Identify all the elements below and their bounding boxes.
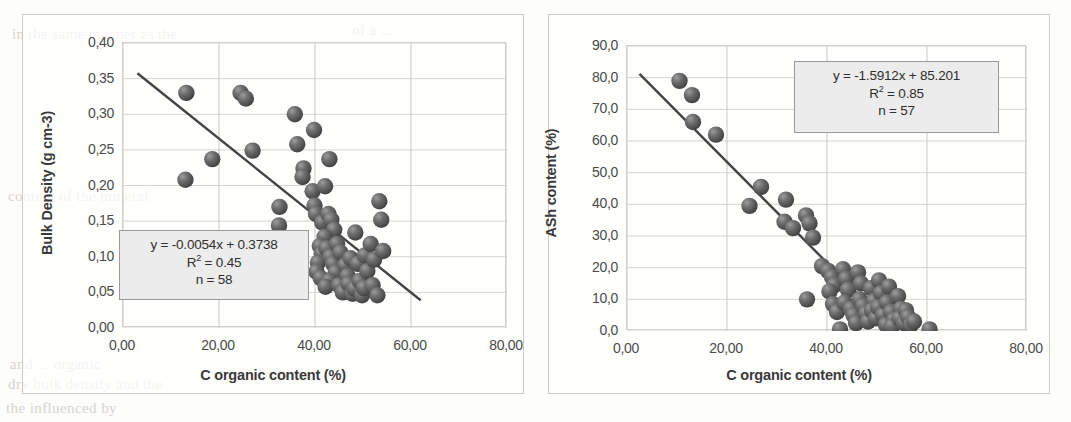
y-tick-label: 20,0 <box>592 259 618 275</box>
y-tick-label: 0,30 <box>88 105 114 121</box>
x-tick-label: 20,00 <box>709 340 743 356</box>
scatter-point <box>271 199 287 215</box>
y-axis-title-bulk-density: Bulk Density (g cm-3) <box>39 111 55 255</box>
regression-annotation-right: y = -1.5912x + 85.201 R2 = 0.85 n = 57 <box>794 61 999 133</box>
y-tick-label: 10,0 <box>592 290 618 306</box>
scatter-point <box>805 229 821 245</box>
scatter-point <box>289 136 305 152</box>
scatter-point <box>921 321 937 331</box>
y-tick-label: 0,35 <box>88 70 114 86</box>
scatter-point <box>785 220 801 236</box>
scatter-point <box>371 193 387 209</box>
scatter-point <box>306 122 322 138</box>
x-tick-label: 80,00 <box>489 337 523 353</box>
y-tick-label: 0,05 <box>88 283 114 299</box>
scatter-point <box>906 313 922 329</box>
x-axis-title-c-organic-left: C organic content (%) <box>23 367 523 383</box>
scatter-point <box>238 90 254 106</box>
regression-equation-left: y = -0.0054x + 0.3738 <box>129 236 299 253</box>
y-axis-title-ash-content: ASh content (%) <box>543 129 559 238</box>
scatter-point <box>741 198 757 214</box>
r-squared-left: R2 = 0.45 <box>129 253 299 271</box>
bulk-density-panel: Bulk Density (g cm-3) C organic content … <box>22 14 524 394</box>
ghost-text: the influenced by <box>6 400 117 417</box>
scatter-point <box>178 85 194 101</box>
regression-equation-right: y = -1.5912x + 85.201 <box>804 67 989 84</box>
scatter-point <box>373 212 389 228</box>
scatter-point <box>778 191 794 207</box>
x-axis-title-c-organic-right: C organic content (%) <box>549 367 1049 383</box>
x-tick-label: 40,00 <box>809 340 843 356</box>
y-tick-label: 40,0 <box>592 195 618 211</box>
scatter-point <box>708 126 724 142</box>
ash-content-chart: ASh content (%) C organic content (%) 0,… <box>549 15 1049 393</box>
y-tick-label: 30,0 <box>592 227 618 243</box>
figure-container: in the same manner as theof a ...content… <box>0 0 1071 422</box>
y-tick-label: 0,00 <box>88 319 114 335</box>
x-tick-label: 0,00 <box>613 340 639 356</box>
scatter-point <box>753 179 769 195</box>
x-tick-label: 60,00 <box>909 340 943 356</box>
scatter-point <box>317 178 333 194</box>
y-tick-label: 0,10 <box>88 248 114 264</box>
x-tick-label: 80,00 <box>1009 340 1043 356</box>
y-tick-label: 70,0 <box>592 100 618 116</box>
scatter-point <box>671 73 687 89</box>
scatter-point <box>347 224 363 240</box>
y-tick-label: 60,0 <box>592 132 618 148</box>
scatter-point <box>294 169 310 185</box>
r-squared-right: R2 = 0.85 <box>804 84 989 102</box>
bulk-density-chart: Bulk Density (g cm-3) C organic content … <box>23 15 523 393</box>
y-tick-label: 50,0 <box>592 164 618 180</box>
x-tick-label: 60,00 <box>393 337 427 353</box>
y-tick-label: 0,20 <box>88 177 114 193</box>
scatter-point <box>244 142 260 158</box>
x-tick-label: 0,00 <box>109 337 135 353</box>
scatter-point <box>832 321 848 331</box>
y-tick-label: 0,40 <box>88 34 114 50</box>
scatter-point <box>321 151 337 167</box>
scatter-point <box>685 114 701 130</box>
scatter-point <box>799 291 815 307</box>
y-tick-label: 0,15 <box>88 212 114 228</box>
sample-size-left: n = 58 <box>129 271 299 288</box>
y-tick-label: 90,0 <box>592 37 618 53</box>
regression-annotation-left: y = -0.0054x + 0.3738 R2 = 0.45 n = 58 <box>119 230 309 300</box>
scatter-point <box>369 287 385 303</box>
sample-size-right: n = 57 <box>804 102 989 119</box>
scatter-point <box>684 87 700 103</box>
x-tick-label: 20,00 <box>201 337 235 353</box>
x-tick-label: 40,00 <box>297 337 331 353</box>
y-tick-label: 80,0 <box>592 69 618 85</box>
scatter-point <box>287 106 303 122</box>
y-tick-label: 0,25 <box>88 141 114 157</box>
scatter-point <box>204 151 220 167</box>
scatter-point <box>375 243 391 259</box>
scatter-point <box>801 215 817 231</box>
scatter-point <box>177 172 193 188</box>
y-tick-label: 0,0 <box>599 322 618 338</box>
ash-content-panel: ASh content (%) C organic content (%) 0,… <box>548 14 1050 394</box>
